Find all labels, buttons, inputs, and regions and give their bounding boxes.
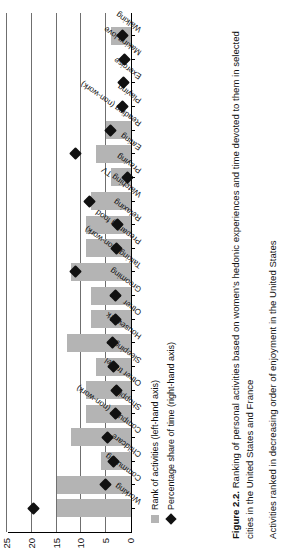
- category-tick: [131, 177, 135, 178]
- category-tick: [131, 461, 135, 462]
- category-tick: [131, 484, 135, 485]
- category-tick: [131, 508, 135, 509]
- data-point-diamond: [69, 147, 82, 160]
- category-tick: [131, 201, 135, 202]
- left-axis-tick-label: 20: [26, 538, 37, 549]
- left-axis-tick-label: 25: [1, 538, 12, 549]
- category-tick: [131, 153, 135, 154]
- category-tick: [131, 130, 135, 131]
- category-group: [8, 286, 131, 306]
- figure-note: Activities ranked in decreasing order of…: [266, 19, 280, 539]
- left-axis-tick-label: 5: [100, 538, 111, 543]
- category-group: [8, 120, 131, 140]
- chart-legend: Rank of activities (left-hand axis) Perc…: [150, 342, 182, 523]
- category-group: [8, 333, 131, 353]
- category-tick: [131, 272, 135, 273]
- category-tick: [131, 390, 135, 391]
- figure-caption: Figure 2.2. Ranking of personal activiti…: [229, 19, 281, 539]
- category-tick: [131, 437, 135, 438]
- category-group: [8, 73, 131, 93]
- gridline: [6, 13, 7, 532]
- category-group: [8, 144, 131, 164]
- figure-title: Ranking of personal activities based on …: [230, 31, 255, 539]
- left-axis-tick-label: 0: [125, 538, 136, 543]
- chart-rotation-container: 0510152025 0.00.10.20.30.4 WorkingCommut…: [0, 0, 230, 547]
- data-point-diamond: [27, 502, 40, 515]
- category-tick: [131, 106, 135, 107]
- legend-label-rank: Rank of activities (left-hand axis): [150, 380, 160, 510]
- left-axis-tick-label: 10: [75, 538, 86, 549]
- category-group: [8, 191, 131, 211]
- chart: 0510152025 0.00.10.20.30.4 WorkingCommut…: [0, 0, 230, 547]
- category-tick: [131, 366, 135, 367]
- category-tick: [131, 413, 135, 414]
- category-group: [8, 498, 131, 518]
- diamond-swatch-icon: [165, 513, 176, 524]
- bar: [57, 499, 131, 517]
- category-tick: [131, 295, 135, 296]
- category-tick: [131, 342, 135, 343]
- category-group: [8, 49, 131, 69]
- category-tick: [131, 319, 135, 320]
- legend-item-share: Percentage share of time (right-hand axi…: [166, 342, 176, 523]
- square-swatch-icon: [151, 515, 159, 523]
- category-tick: [131, 35, 135, 36]
- figure-label: Figure 2.2.: [230, 491, 241, 539]
- category-tick: [131, 248, 135, 249]
- category-tick: [131, 59, 135, 60]
- left-axis-tick-label: 15: [51, 538, 62, 549]
- caption-rotation-container: Figure 2.2. Ranking of personal activiti…: [225, 0, 286, 547]
- legend-item-rank: Rank of activities (left-hand axis): [150, 342, 160, 523]
- category-group: [8, 475, 131, 495]
- category-tick: [131, 224, 135, 225]
- legend-label-share: Percentage share of time (right-hand axi…: [166, 342, 176, 510]
- category-tick: [131, 82, 135, 83]
